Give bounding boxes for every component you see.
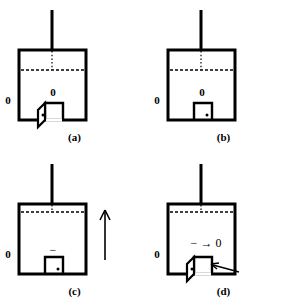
container-box-a [19,50,86,120]
caption-c: (c) [0,285,149,297]
label-inside-a: 0 [50,86,56,98]
panel-c: 0 − (c) [0,154,149,308]
caption-b: (b) [149,131,298,143]
door-frame-d [194,257,212,274]
figure-canvas: 0 0 (a) 0 0 (b) [0,0,298,308]
label-inside-c: − [50,243,57,257]
door-closed-b [194,103,212,120]
door-frame-a [45,103,63,120]
label-outside-b: 0 [154,94,160,106]
door-handle-d [191,268,194,271]
container-box-c [19,204,86,274]
caption-a: (a) [0,131,149,143]
panel-d: 0 − → 0 (d) [149,154,298,308]
door-closed-c [45,257,63,274]
panel-b: 0 0 (b) [149,0,298,154]
label-inside-b: 0 [199,86,205,98]
door-handle-c [57,268,60,271]
label-outside-d: 0 [154,248,160,260]
label-inside-d: − → 0 [191,236,222,250]
door-handle-a [42,114,45,117]
door-handle-b [206,114,209,117]
caption-d: (d) [149,285,298,297]
label-outside-a: 0 [5,94,11,106]
panel-a: 0 0 (a) [0,0,149,154]
container-box-b [168,50,235,120]
label-outside-c: 0 [5,248,11,260]
